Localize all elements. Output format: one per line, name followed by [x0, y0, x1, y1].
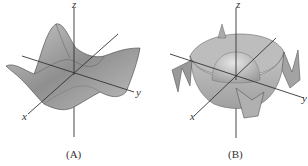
surface-b-graphic — [152, 0, 308, 166]
surface-plot-a: z y x (A) — [0, 0, 155, 166]
z-axis-label: z — [236, 0, 240, 10]
surface-plot-b: z y x (B) — [152, 0, 308, 166]
z-axis-label: z — [72, 0, 76, 10]
surface-a-graphic — [0, 0, 155, 166]
figure-caption-a: (A) — [66, 148, 81, 160]
x-axis-label: x — [22, 110, 27, 122]
x-axis-label: x — [190, 110, 195, 122]
figure-caption-b: (B) — [228, 148, 243, 160]
y-axis-label: y — [136, 86, 141, 98]
y-axis-label: y — [302, 92, 307, 104]
